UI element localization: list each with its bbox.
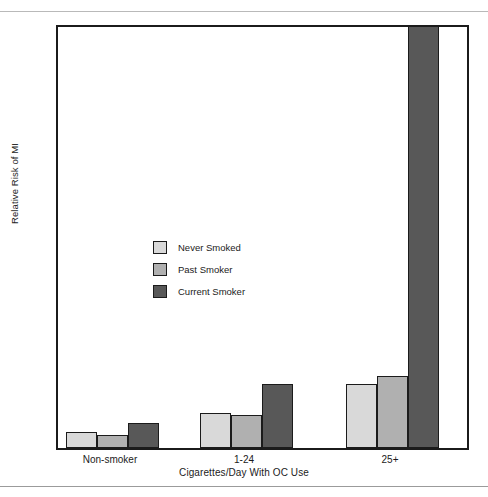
- plot-area: Never Smoked Past Smoker Current Smoker: [56, 25, 469, 450]
- x-axis-group-label: Non-smoker: [83, 454, 137, 465]
- legend-swatch-current-smoker: [153, 285, 167, 298]
- top-divider-rule: [0, 11, 488, 12]
- legend-swatch-past-smoker: [153, 263, 167, 276]
- bar: [377, 376, 408, 448]
- x-axis-group-label: 25+: [382, 454, 399, 465]
- bottom-divider-rule: [0, 486, 488, 487]
- bar: [408, 25, 439, 448]
- legend-label-past-smoker: Past Smoker: [178, 264, 232, 275]
- bar: [231, 415, 262, 448]
- bar: [262, 384, 293, 448]
- bar: [66, 432, 97, 448]
- legend: Never Smoked Past Smoker Current Smoker: [153, 236, 245, 302]
- bar: [200, 413, 231, 448]
- legend-item: Never Smoked: [153, 236, 245, 258]
- x-axis-group-label: 1-24: [234, 454, 254, 465]
- y-axis-title: Relative Risk of MI: [9, 119, 20, 249]
- x-axis-title: Cigarettes/Day With OC Use: [0, 467, 488, 478]
- legend-swatch-never-smoked: [153, 241, 167, 254]
- bar: [346, 384, 377, 448]
- legend-item: Current Smoker: [153, 280, 245, 302]
- legend-label-never-smoked: Never Smoked: [178, 242, 241, 253]
- legend-item: Past Smoker: [153, 258, 245, 280]
- legend-label-current-smoker: Current Smoker: [178, 286, 245, 297]
- figure: Relative Risk of MI 051015202530 Never S…: [0, 0, 488, 497]
- bar: [128, 423, 159, 449]
- bar: [97, 435, 128, 448]
